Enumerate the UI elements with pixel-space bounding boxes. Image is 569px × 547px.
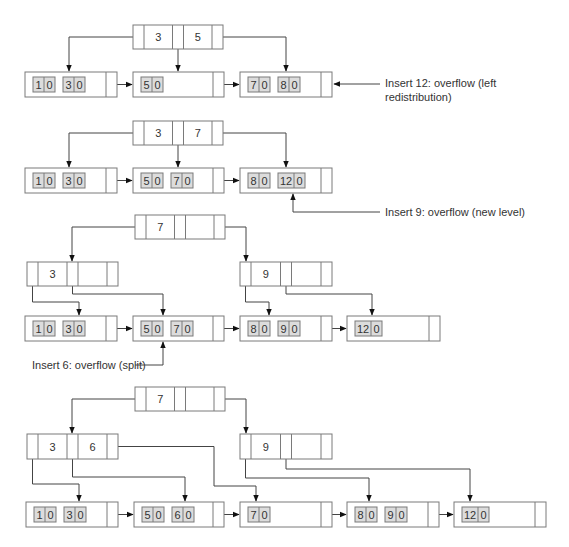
- record-key-digit: 5: [143, 79, 149, 91]
- index-key: 5: [195, 31, 201, 43]
- record-key-digit: 0: [261, 79, 267, 91]
- record-key-digit: 0: [76, 175, 82, 187]
- index-key: 7: [157, 393, 163, 405]
- record-key-digit: 9: [280, 323, 286, 335]
- record-key-digit: 0: [184, 175, 190, 187]
- record-key-digit: 1: [35, 323, 41, 335]
- pointer-arrow: [218, 37, 287, 71]
- pointer-arrow: [72, 227, 141, 261]
- record-key-digit: 12: [357, 323, 369, 335]
- record-key-digit: 9: [387, 509, 393, 521]
- record-key-digit: 7: [173, 323, 179, 335]
- index-key: 6: [89, 441, 95, 453]
- record-key-digit: 5: [144, 509, 150, 521]
- record-key-digit: 0: [155, 509, 161, 521]
- index-node: [133, 121, 223, 145]
- record-key-digit: 0: [261, 509, 267, 521]
- annotation-label: Insert 6: overflow (split): [32, 359, 146, 371]
- index-key: 7: [195, 127, 201, 139]
- record-key-digit: 0: [47, 509, 53, 521]
- index-node: [240, 434, 332, 459]
- record-key-digit: 1: [35, 79, 41, 91]
- index-key: 9: [263, 268, 269, 280]
- index-node: [135, 387, 225, 411]
- annotation-label: Insert 9: overflow (new level): [385, 206, 525, 218]
- record-key-digit: 0: [373, 323, 379, 335]
- record-key-digit: 0: [76, 323, 82, 335]
- record-key-digit: 12: [280, 175, 292, 187]
- pointer-arrow: [293, 194, 380, 212]
- pointer-arrow: [69, 133, 139, 167]
- record-key-digit: 0: [154, 175, 160, 187]
- record-key-digit: 0: [46, 79, 52, 91]
- tree-nodes: 3510305070803710305070801207391030507080…: [25, 25, 546, 527]
- record-key-digit: 0: [154, 323, 160, 335]
- record-key-digit: 0: [154, 79, 160, 91]
- pointer-arrow: [218, 133, 287, 167]
- record-key-digit: 0: [291, 323, 297, 335]
- record-key-digit: 7: [173, 175, 179, 187]
- record-key-digit: 8: [250, 175, 256, 187]
- record-key-digit: 0: [398, 509, 404, 521]
- b-plus-tree-diagram: 3510305070803710305070801207391030507080…: [0, 0, 569, 547]
- index-key: 7: [157, 221, 163, 233]
- record-key-digit: 0: [185, 509, 191, 521]
- pointer-arrow: [72, 399, 141, 433]
- index-key: 3: [49, 441, 55, 453]
- index-key: 3: [155, 31, 161, 43]
- stage-4: 736910305060708090120: [26, 387, 546, 527]
- record-key-digit: 12: [464, 509, 476, 521]
- index-node: [133, 25, 223, 49]
- record-key-digit: 8: [280, 79, 286, 91]
- record-key-digit: 7: [250, 79, 256, 91]
- record-key-digit: 5: [143, 175, 149, 187]
- record-key-digit: 0: [184, 323, 190, 335]
- record-key-digit: 0: [46, 323, 52, 335]
- record-key-digit: 0: [291, 79, 297, 91]
- pointer-arrow: [69, 37, 139, 71]
- index-node: [240, 262, 332, 286]
- index-node: [27, 262, 118, 286]
- record-key-digit: 0: [77, 509, 83, 521]
- record-key-digit: 0: [76, 79, 82, 91]
- annotation-label: Insert 12: overflow (left: [385, 77, 496, 89]
- index-node: [135, 215, 225, 239]
- index-key: 3: [49, 268, 55, 280]
- record-key-digit: 3: [66, 509, 72, 521]
- record-key-digit: 8: [357, 509, 363, 521]
- record-key-digit: 0: [46, 175, 52, 187]
- record-key-digit: 0: [261, 323, 267, 335]
- record-key-digit: 0: [480, 509, 486, 521]
- record-key-digit: 0: [296, 175, 302, 187]
- pointer-arrow: [113, 447, 257, 502]
- stage-3: 739103050708090120: [25, 215, 440, 341]
- index-node: [27, 434, 118, 459]
- record-key-digit: 3: [65, 175, 71, 187]
- record-key-digit: 6: [174, 509, 180, 521]
- record-key-digit: 3: [65, 323, 71, 335]
- record-key-digit: 7: [250, 509, 256, 521]
- index-key: 9: [263, 441, 269, 453]
- annotation-label: redistribution): [385, 91, 452, 103]
- record-key-digit: 1: [36, 509, 42, 521]
- record-key-digit: 5: [143, 323, 149, 335]
- record-key-digit: 1: [35, 175, 41, 187]
- record-key-digit: 8: [250, 323, 256, 335]
- record-key-digit: 0: [261, 175, 267, 187]
- record-key-digit: 3: [65, 79, 71, 91]
- index-key: 3: [155, 127, 161, 139]
- record-key-digit: 0: [368, 509, 374, 521]
